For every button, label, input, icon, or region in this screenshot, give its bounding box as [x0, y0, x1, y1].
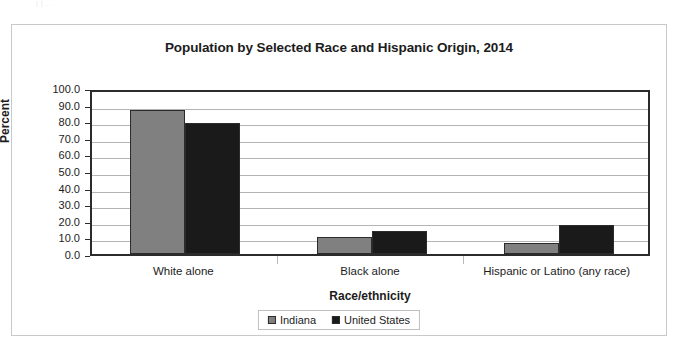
y-axis-tick-label: 40.0 [28, 184, 80, 195]
y-axis-tick-label: 90.0 [28, 101, 80, 112]
y-axis-tick-mark [85, 256, 90, 257]
x-axis-category-label: Hispanic or Latino (any race) [447, 265, 667, 277]
bar-united-states-1 [372, 231, 427, 254]
legend-swatch-icon [332, 316, 340, 324]
y-axis-title: Percent [0, 99, 12, 143]
x-axis-category-separator [463, 256, 464, 264]
y-axis-tick-label: 80.0 [28, 117, 80, 128]
y-axis-tick-label: 30.0 [28, 200, 80, 211]
y-axis-tick-label: 10.0 [28, 233, 80, 244]
legend-label: Indiana [280, 314, 316, 326]
legend-entry-united-states[interactable]: United States [332, 314, 410, 326]
y-axis-tick-label: 50.0 [28, 167, 80, 178]
bar-indiana-0 [130, 110, 185, 254]
x-axis-category-separator [277, 256, 278, 264]
scan-artifact-text: [ ] . . [36, 0, 256, 7]
plot-area [90, 90, 650, 256]
legend-entry-indiana[interactable]: Indiana [268, 314, 316, 326]
chart-title: Population by Selected Race and Hispanic… [12, 40, 666, 55]
bar-united-states-2 [559, 225, 614, 254]
bar-united-states-0 [185, 123, 240, 254]
y-axis-tick-label: 0.0 [28, 250, 80, 261]
bar-indiana-1 [317, 237, 372, 254]
bar-indiana-2 [504, 243, 559, 254]
chart-legend: IndianaUnited States [258, 310, 420, 330]
y-axis-tick-label: 100.0 [28, 84, 80, 95]
legend-swatch-icon [268, 316, 276, 324]
y-axis-tick-label: 70.0 [28, 134, 80, 145]
chart-figure: Population by Selected Race and Hispanic… [11, 24, 667, 336]
x-axis-title: Race/ethnicity [90, 289, 650, 303]
y-axis-tick-label: 60.0 [28, 150, 80, 161]
y-axis-tick-label: 20.0 [28, 217, 80, 228]
legend-label: United States [344, 314, 410, 326]
